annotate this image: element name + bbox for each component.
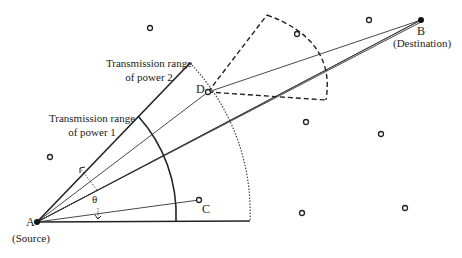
node-b-marker <box>418 17 424 23</box>
other-node-marker <box>148 26 153 31</box>
diagram-canvas: Transmission range of power 2 Transmissi… <box>0 0 462 258</box>
range-power-2-line2: of power 2 <box>104 72 194 83</box>
line-d-to-b <box>208 20 421 92</box>
sector-upper-boundary <box>37 63 190 222</box>
range-power-1-line1: Transmission range <box>47 113 137 124</box>
other-node-marker <box>367 18 372 23</box>
other-node-marker <box>48 155 53 160</box>
other-node-marker <box>295 32 300 37</box>
theta-label: θ <box>92 194 97 205</box>
node-b-label: B <box>417 25 425 37</box>
d-sector-arc <box>267 15 327 100</box>
destination-label: (Destination) <box>393 38 451 49</box>
range-power-1-label: Transmission range of power 1 <box>47 113 137 138</box>
other-node-marker <box>379 132 384 137</box>
node-d-label: D <box>196 83 205 95</box>
theta-marker-upper <box>80 168 97 190</box>
other-node-marker <box>403 206 408 211</box>
range-power-2-line1: Transmission range <box>104 58 194 69</box>
sector-lower-boundary <box>37 221 250 222</box>
source-label: (Source) <box>12 233 50 244</box>
other-node-marker <box>300 211 305 216</box>
d-sector-lower-boundary <box>208 92 326 100</box>
d-sector-upper-boundary <box>208 15 267 92</box>
node-c-label: C <box>202 203 210 215</box>
range-power-1-line2: of power 1 <box>47 127 137 138</box>
node-d-marker <box>206 90 211 95</box>
node-c-marker <box>197 198 202 203</box>
range-power-2-label: Transmission range of power 2 <box>104 58 194 83</box>
node-a-label: A <box>26 216 35 228</box>
other-node-marker <box>304 120 309 125</box>
